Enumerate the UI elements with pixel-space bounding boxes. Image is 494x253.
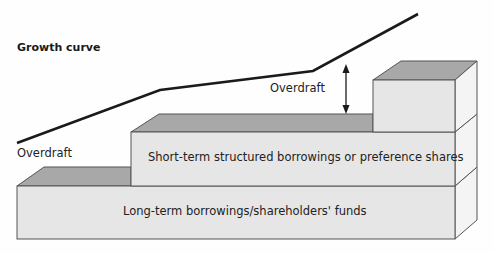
- growth-curve-title: Growth curve: [17, 41, 101, 54]
- top-block: [373, 61, 477, 132]
- mid-block-label: Short-term structured borrowings or pref…: [148, 150, 464, 164]
- bottom-block-top: [17, 167, 131, 186]
- bottom-block-label: Long-term borrowings/shareholders' funds: [123, 204, 367, 218]
- overdraft-double-arrow-icon: [343, 64, 350, 114]
- diagram-canvas: Growth curve Overdraft Overdraft Short-t…: [0, 0, 494, 253]
- overdraft-label-left: Overdraft: [17, 146, 72, 160]
- mid-block-top: [131, 114, 373, 132]
- top-block-front: [373, 80, 455, 132]
- overdraft-label-right: Overdraft: [270, 81, 325, 95]
